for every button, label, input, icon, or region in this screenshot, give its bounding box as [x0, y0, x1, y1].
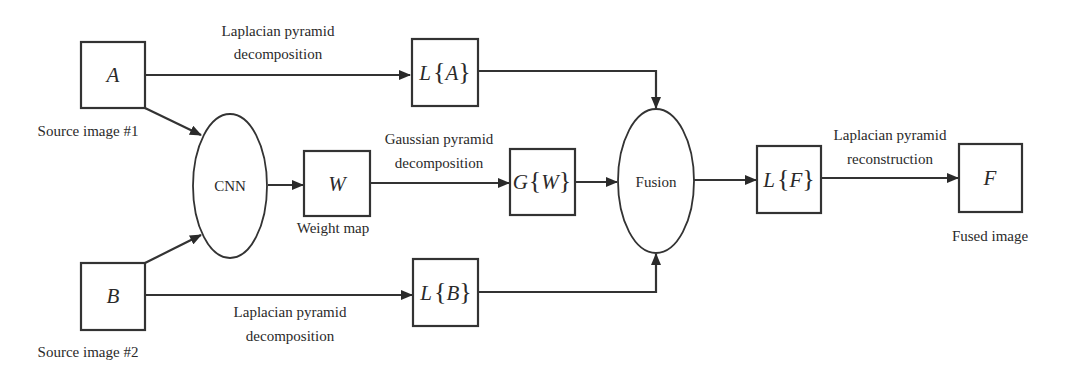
svg-text:reconstruction: reconstruction [847, 151, 933, 167]
fused-symbol: F [983, 166, 997, 190]
svg-text:decomposition: decomposition [234, 46, 323, 62]
node-laplacian-a: L{A} [412, 39, 478, 106]
lb-expression: L{B} [419, 277, 471, 306]
fusion-pipeline-diagram: A Source image #1 B Source image #2 CNN … [0, 0, 1071, 380]
svg-text:Laplacian pyramid: Laplacian pyramid [234, 304, 347, 320]
node-source-b: B Source image #2 [38, 263, 145, 360]
node-fused-image: F Fused image [952, 144, 1029, 244]
edge-la-to-fusion [478, 71, 656, 108]
svg-text:Laplacian pyramid: Laplacian pyramid [222, 23, 335, 39]
svg-text:Laplacian pyramid: Laplacian pyramid [834, 127, 947, 143]
edge-label-gaussian-decomposition: Gaussian pyramid decomposition [385, 131, 494, 171]
weight-caption: Weight map [297, 220, 370, 236]
edge-lb-to-fusion [478, 254, 656, 292]
source-b-symbol: B [107, 284, 120, 308]
node-weight-map: W Weight map [297, 151, 370, 236]
node-fusion: Fusion [618, 109, 694, 253]
node-gaussian-w: G{W} [510, 149, 575, 215]
svg-text:decomposition: decomposition [395, 155, 484, 171]
edge-label-reconstruction: Laplacian pyramid reconstruction [834, 127, 947, 167]
edge-b-to-cnn [145, 235, 201, 263]
weight-symbol: W [328, 172, 348, 196]
la-expression: L{A} [418, 57, 470, 86]
source-a-symbol: A [105, 63, 120, 87]
node-cnn: CNN [193, 114, 267, 258]
svg-text:Gaussian pyramid: Gaussian pyramid [385, 131, 494, 147]
node-source-a: A Source image #1 [38, 42, 145, 139]
gw-expression: G{W} [513, 166, 572, 195]
source-b-caption: Source image #2 [38, 344, 139, 360]
node-laplacian-b: L{B} [413, 259, 478, 326]
node-laplacian-f: L{F} [757, 146, 821, 213]
edge-a-to-cnn [145, 108, 201, 135]
svg-text:decomposition: decomposition [246, 328, 335, 344]
fusion-label: Fusion [636, 174, 677, 190]
edge-label-a-decomposition: Laplacian pyramid decomposition [222, 23, 335, 62]
edge-label-b-decomposition: Laplacian pyramid decomposition [234, 304, 347, 344]
cnn-label: CNN [214, 178, 246, 194]
fused-caption: Fused image [952, 228, 1029, 244]
lf-expression: L{F} [762, 164, 814, 193]
source-a-caption: Source image #1 [38, 123, 139, 139]
